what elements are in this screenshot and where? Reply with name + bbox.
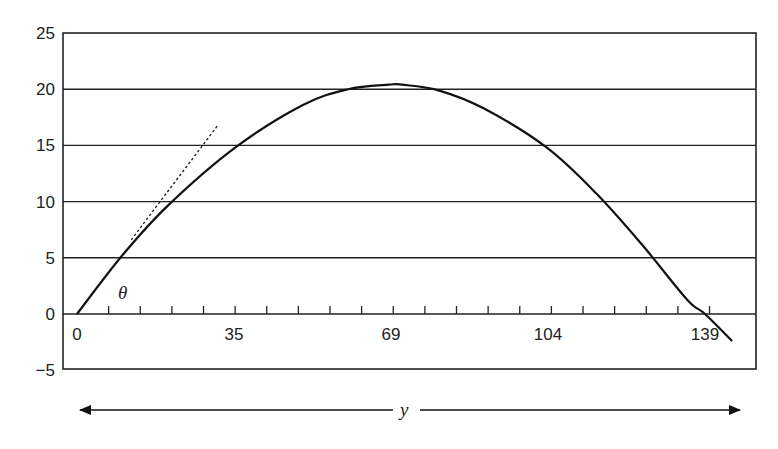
- x-tick-label: 104: [534, 325, 562, 344]
- tangent-line: [131, 126, 217, 240]
- x-tick-label: 35: [225, 325, 244, 344]
- data-series: [77, 84, 732, 341]
- x-tick-label: 69: [382, 325, 401, 344]
- y-tick-label: 25: [36, 24, 55, 43]
- y-tick-label: −5: [36, 361, 55, 380]
- trajectory-curve: [77, 84, 732, 341]
- y-tick-label: 5: [46, 249, 55, 268]
- y-axis-tick-labels: 2520151050−5: [36, 24, 55, 380]
- range-y-label: y: [398, 399, 409, 420]
- angle-theta-label: θ: [118, 282, 127, 303]
- x-tick-label: 0: [72, 325, 81, 344]
- y-tick-label: 0: [46, 305, 55, 324]
- range-arrow: y: [80, 399, 740, 420]
- x-axis-tick-labels: 03569104139: [72, 325, 719, 344]
- x-axis: [109, 306, 710, 314]
- x-tick-label: 139: [691, 325, 719, 344]
- horizontal-gridlines: [63, 89, 756, 314]
- trajectory-chart: 2520151050−5 03569104139 θ y: [0, 0, 778, 449]
- y-tick-label: 10: [36, 193, 55, 212]
- y-tick-label: 15: [36, 136, 55, 155]
- y-tick-label: 20: [36, 80, 55, 99]
